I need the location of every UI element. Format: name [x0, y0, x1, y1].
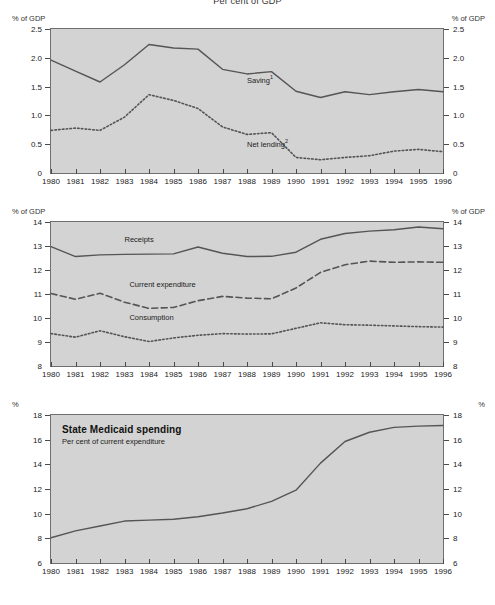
- chart-panel-receipts-expenditure: % of GDP % of GDP ReceiptsCurrent expend…: [0, 207, 495, 397]
- xtick-mark: [419, 559, 420, 564]
- ytick-mark-left: [45, 115, 50, 116]
- xtick-label: 1994: [385, 567, 403, 576]
- panel-3-callout: State Medicaid spending Per cent of curr…: [62, 424, 182, 446]
- xtick-label: 1993: [361, 370, 379, 379]
- xtick-mark: [51, 559, 52, 564]
- xtick-mark: [149, 362, 150, 367]
- series-label-net-lending: Net lending2: [247, 138, 288, 149]
- ytick-mark-right: [444, 489, 449, 490]
- xtick-mark: [296, 362, 297, 367]
- xtick-mark: [419, 169, 420, 174]
- xtick-label: 1987: [214, 177, 232, 186]
- xtick-label: 1980: [42, 567, 60, 576]
- series-label-text: Saving: [247, 75, 270, 84]
- xtick-mark: [321, 559, 322, 564]
- ytick-label-right: 0.5: [453, 140, 483, 149]
- xtick-label: 1988: [238, 177, 256, 186]
- ytick-mark-right: [444, 415, 449, 416]
- xtick-mark: [296, 169, 297, 174]
- ytick-label-right: 8: [453, 362, 483, 371]
- ytick-mark-right: [444, 294, 449, 295]
- series-line-receipts: [51, 227, 443, 257]
- xtick-mark: [76, 169, 77, 174]
- ytick-mark-left: [45, 464, 50, 465]
- ytick-mark-right: [444, 222, 449, 223]
- xtick-label: 1989: [263, 370, 281, 379]
- series-label-text: Receipts: [125, 235, 154, 244]
- series-label-receipts: Receipts: [125, 235, 154, 244]
- xtick-mark: [272, 362, 273, 367]
- ytick-label-right: 9: [453, 338, 483, 347]
- ytick-mark-left: [45, 538, 50, 539]
- ytick-label-left: 6: [12, 559, 42, 568]
- page-title: Per cent of GDP: [0, 0, 495, 6]
- xtick-mark: [223, 169, 224, 174]
- xtick-label: 1987: [214, 370, 232, 379]
- ytick-label-right: 10: [453, 509, 483, 518]
- xtick-label: 1984: [140, 177, 158, 186]
- xtick-label: 1995: [410, 370, 428, 379]
- xtick-label: 1988: [238, 370, 256, 379]
- series-label-footnote: 1: [270, 74, 273, 80]
- ytick-label-right: 11: [453, 290, 483, 299]
- xtick-label: 1982: [91, 370, 109, 379]
- xtick-mark: [149, 559, 150, 564]
- xtick-mark: [370, 559, 371, 564]
- xtick-mark: [443, 169, 444, 174]
- ytick-label-left: 9: [12, 338, 42, 347]
- ytick-mark-right: [444, 464, 449, 465]
- ytick-label-right: 8: [453, 534, 483, 543]
- axis-unit-right-panel-3: %: [478, 400, 485, 409]
- ytick-label-left: 8: [12, 362, 42, 371]
- xtick-label: 1980: [42, 370, 60, 379]
- xtick-label: 1989: [263, 567, 281, 576]
- callout-subtitle: Per cent of current expenditure: [62, 437, 182, 446]
- xtick-label: 1982: [91, 177, 109, 186]
- xtick-mark: [174, 169, 175, 174]
- xtick-label: 1984: [140, 567, 158, 576]
- ytick-mark-right: [444, 318, 449, 319]
- xtick-mark: [125, 362, 126, 367]
- ytick-label-left: 18: [12, 411, 42, 420]
- xtick-mark: [345, 169, 346, 174]
- xtick-label: 1990: [287, 177, 305, 186]
- axis-unit-left-panel-2: % of GDP: [12, 207, 45, 216]
- ytick-label-left: 14: [12, 460, 42, 469]
- xtick-mark: [125, 559, 126, 564]
- xtick-mark: [272, 559, 273, 564]
- ytick-mark-right: [444, 538, 449, 539]
- callout-title: State Medicaid spending: [62, 424, 182, 435]
- chart-panel-saving-net-lending: % of GDP % of GDP Saving1Net lending2 00…: [0, 14, 495, 204]
- ytick-mark-left: [45, 489, 50, 490]
- xtick-mark: [125, 169, 126, 174]
- series-label-current-expenditure: Current expenditure: [129, 280, 195, 289]
- ytick-mark-right: [444, 115, 449, 116]
- xtick-mark: [198, 559, 199, 564]
- xtick-mark: [394, 362, 395, 367]
- ytick-label-left: 8: [12, 534, 42, 543]
- xtick-mark: [100, 169, 101, 174]
- xtick-label: 1981: [67, 567, 85, 576]
- xtick-mark: [247, 169, 248, 174]
- xtick-mark: [76, 559, 77, 564]
- xtick-label: 1996: [434, 567, 452, 576]
- xtick-mark: [345, 362, 346, 367]
- xtick-label: 1991: [312, 177, 330, 186]
- xtick-label: 1985: [165, 567, 183, 576]
- ytick-label-right: 10: [453, 314, 483, 323]
- series-line-current-expenditure: [51, 261, 443, 308]
- xtick-mark: [443, 559, 444, 564]
- xtick-label: 1980: [42, 177, 60, 186]
- series-label-footnote: 2: [285, 138, 288, 144]
- xtick-label: 1986: [189, 177, 207, 186]
- xtick-label: 1986: [189, 370, 207, 379]
- xtick-label: 1994: [385, 370, 403, 379]
- xtick-label: 1982: [91, 567, 109, 576]
- ytick-label-right: 16: [453, 435, 483, 444]
- xtick-label: 1992: [336, 177, 354, 186]
- xtick-label: 1990: [287, 567, 305, 576]
- xtick-mark: [272, 169, 273, 174]
- xtick-mark: [345, 559, 346, 564]
- xtick-mark: [394, 169, 395, 174]
- xtick-label: 1996: [434, 177, 452, 186]
